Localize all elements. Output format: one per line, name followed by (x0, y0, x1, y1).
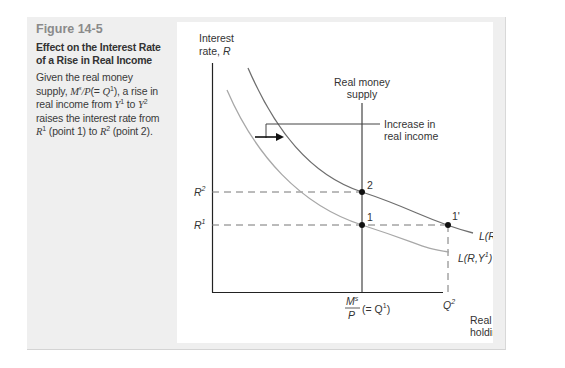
money-market-diagram: Interest rate, R Real money supply Incre… (177, 22, 493, 343)
label-l-y1: L(R,Y1) (458, 251, 492, 264)
label-l-y2: L(R,Y2) (479, 229, 493, 242)
point-1 (359, 222, 365, 228)
figure-title: Effect on the Interest Rate of a Rise in… (36, 41, 166, 67)
point-2-label: 2 (367, 179, 373, 191)
x-tick-q1: (= Q1) (362, 302, 390, 315)
chart-area: Interest rate, R Real money supply Incre… (177, 22, 493, 343)
supply-label-line2: supply (347, 88, 378, 100)
y-tick-r2: R2 (194, 185, 206, 198)
supply-label-line1: Real money (334, 76, 391, 88)
x-axis-label-line2: holdings (470, 326, 493, 338)
point-1-prime (445, 222, 451, 228)
shift-arrow-icon (276, 133, 284, 141)
annotation-line1: Increase in (384, 118, 436, 130)
demand-curve-y1 (227, 90, 449, 252)
figure-caption: Given the real money supply, Ms/P(= Q1),… (36, 71, 166, 139)
figure-caption-column: Figure 14-5 Effect on the Interest Rate … (36, 22, 166, 139)
y-axis-label-line1: Interest (199, 32, 234, 44)
annotation-line2: real income (384, 130, 438, 142)
point-2 (359, 189, 365, 195)
y-tick-r1: R1 (194, 218, 206, 231)
figure-number: Figure 14-5 (36, 22, 166, 36)
point-1-label: 1 (367, 211, 373, 223)
point-1-prime-label: 1' (452, 210, 460, 222)
x-tick-ms-denominator: P (348, 309, 355, 321)
x-tick-q2: Q2 (443, 298, 455, 311)
x-tick-ms-numerator: Ms (346, 295, 359, 307)
y-axis-label-line2: rate, R (199, 45, 231, 57)
x-axis-label-line1: Real money (470, 314, 493, 326)
